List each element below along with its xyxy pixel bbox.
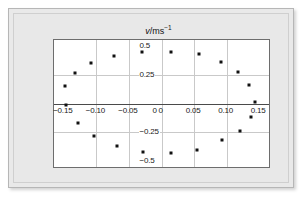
data-point <box>73 71 76 74</box>
y-tick-label: −0.25 <box>139 127 160 136</box>
x-tick-label: 0.10 <box>218 106 233 115</box>
data-point <box>169 50 172 53</box>
data-point <box>220 60 223 63</box>
x-tick-label: −0.05 <box>118 106 137 115</box>
figure-inner-panel: v/ms−1 s/m −0.15−0.10−0.0500.050.100.15 … <box>13 13 289 183</box>
y-axis-title: v/ms−1 <box>145 24 171 36</box>
data-point <box>197 53 200 56</box>
data-point <box>64 84 67 87</box>
y-tick-label: −0.5 <box>139 156 156 165</box>
x-tick-label: −0.15 <box>53 106 72 115</box>
y-axis-unit: /ms <box>150 26 165 36</box>
data-point <box>93 134 96 137</box>
data-point <box>77 121 80 124</box>
y-tick-label: 0 <box>152 105 158 114</box>
data-point <box>115 144 118 147</box>
data-point <box>221 139 224 142</box>
data-point <box>248 84 251 87</box>
data-point <box>196 149 199 152</box>
y-tick-label: 0.5 <box>139 40 152 49</box>
scatter-plot-area <box>53 39 270 168</box>
x-tick-label: 0 <box>158 106 162 115</box>
data-point <box>253 101 256 104</box>
gridline-horizontal <box>54 75 269 76</box>
x-tick-label: 0.05 <box>186 106 201 115</box>
data-point <box>250 115 253 118</box>
data-point <box>237 71 240 74</box>
gridline-horizontal <box>54 132 269 133</box>
x-tick-label: 0.15 <box>251 106 266 115</box>
x-axis-zero-line <box>54 104 269 105</box>
data-point <box>140 50 143 53</box>
y-axis-exponent: −1 <box>164 24 171 31</box>
data-point <box>90 61 93 64</box>
figure-frame: v/ms−1 s/m −0.15−0.10−0.0500.050.100.15 … <box>8 8 294 188</box>
data-point <box>238 129 241 132</box>
x-tick-label: −0.10 <box>86 106 105 115</box>
y-tick-label: 0.25 <box>139 69 156 78</box>
data-point <box>142 150 145 153</box>
data-point <box>112 54 115 57</box>
data-point <box>169 152 172 155</box>
